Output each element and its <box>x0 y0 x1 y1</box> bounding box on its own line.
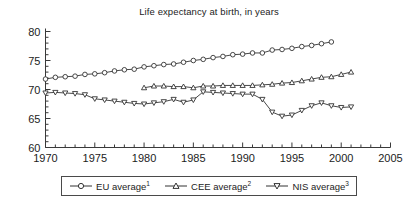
legend-marker-triangle-down-icon <box>265 181 289 191</box>
legend-marker-triangle-up-icon <box>164 181 188 191</box>
legend-footnote-2: 2 <box>248 179 252 186</box>
svg-text:65: 65 <box>28 113 40 125</box>
svg-text:2005: 2005 <box>378 152 402 164</box>
svg-text:1995: 1995 <box>280 152 304 164</box>
legend-marker-circle-icon <box>69 181 93 191</box>
legend-label-eu-average: EU average1 <box>96 181 150 192</box>
svg-text:1975: 1975 <box>83 152 107 164</box>
legend-item-cee-average[interactable]: CEE average2 <box>164 181 251 192</box>
svg-text:1990: 1990 <box>230 152 254 164</box>
svg-text:1980: 1980 <box>132 152 156 164</box>
svg-text:80: 80 <box>28 26 40 38</box>
legend-item-eu-average[interactable]: EU average1 <box>69 181 150 192</box>
svg-text:1970: 1970 <box>33 152 57 164</box>
legend-footnote-3: 3 <box>345 179 349 186</box>
svg-text:70: 70 <box>28 84 40 96</box>
svg-text:75: 75 <box>28 55 40 67</box>
legend-footnote-1: 1 <box>146 179 150 186</box>
chart-legend: EU average1 CEE average2 NIS average3 <box>61 176 357 196</box>
svg-text:1985: 1985 <box>181 152 205 164</box>
axes <box>46 29 391 148</box>
legend-label-cee-average: CEE average2 <box>191 181 251 192</box>
legend-item-nis-average[interactable]: NIS average3 <box>265 181 348 192</box>
chart-figure: Life expectancy at birth, in years 60657… <box>0 0 418 207</box>
legend-label-nis-average: NIS average3 <box>292 181 348 192</box>
svg-text:2000: 2000 <box>329 152 353 164</box>
data-series-group <box>43 40 354 119</box>
